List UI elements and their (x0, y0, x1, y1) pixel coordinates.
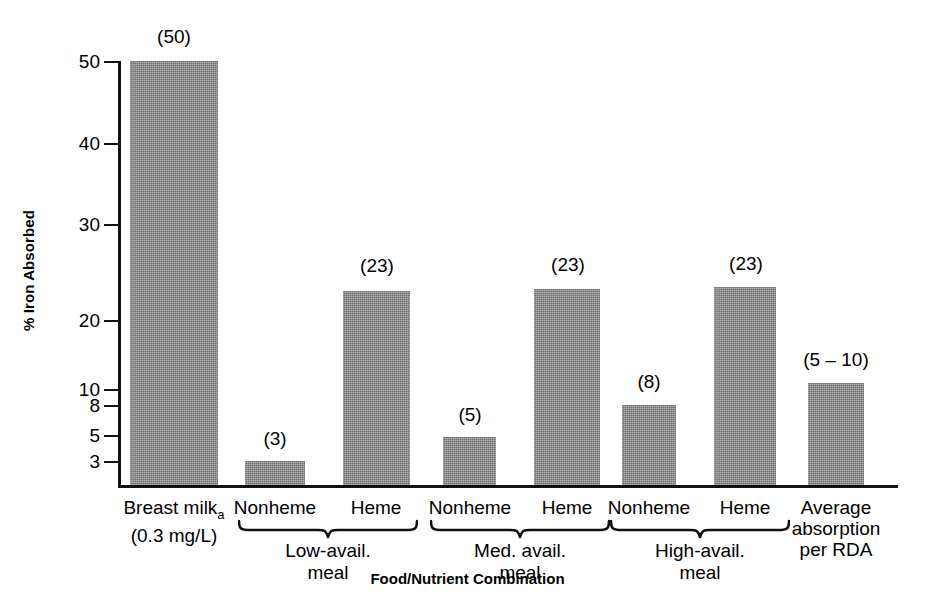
y-tick-label-8: 8 (40, 396, 100, 415)
bar-value-nonheme-med: (5) (435, 405, 505, 424)
category-label-heme-low-text: Heme (351, 497, 402, 518)
bar-nonheme-high (622, 405, 676, 485)
category-label-nonheme-med: Nonheme (408, 497, 532, 518)
group-label-low-avail-line1: Low-avail. (285, 540, 371, 561)
y-tick-mark-8 (104, 405, 120, 407)
y-tick-label-50: 50 (40, 52, 100, 71)
y-tick-mark-40 (104, 143, 120, 145)
bar-heme-med (534, 289, 600, 485)
bar-nonheme-med (443, 437, 496, 485)
bar-heme-high (714, 287, 776, 485)
category-label-heme-med-text: Heme (542, 497, 593, 518)
bar-value-breast-milk: (50) (130, 27, 218, 46)
brace-low-avail (238, 519, 418, 539)
x-axis-title: Food/Nutrient Combination (0, 570, 935, 587)
iron-absorption-bar-chart: % Iron Absorbed 50 40 30 20 10 8 5 3 (50… (0, 0, 935, 606)
bar-value-nonheme-low: (3) (240, 429, 310, 448)
y-tick-mark-30 (104, 224, 120, 226)
bar-breast-milk (130, 61, 218, 485)
category-label-breast-milk-line1: Breast milk (123, 497, 217, 518)
category-label-heme-high-text: Heme (720, 497, 771, 518)
category-label-nonheme-low-text: Nonheme (234, 497, 316, 518)
category-label-nonheme-low: Nonheme (213, 497, 337, 518)
bar-nonheme-low (245, 461, 305, 485)
y-axis-title: % Iron Absorbed (20, 181, 37, 361)
y-tick-label-20: 20 (40, 311, 100, 330)
bar-average-absorption-per-rda (808, 383, 864, 485)
y-tick-label-40: 40 (40, 134, 100, 153)
y-tick-label-3: 3 (40, 452, 100, 471)
y-tick-mark-3 (104, 461, 120, 463)
bar-value-heme-med: (23) (529, 255, 607, 274)
category-label-breast-milk-line2: (0.3 mg/L) (96, 525, 252, 546)
category-label-nonheme-high-text: Nonheme (608, 497, 690, 518)
y-tick-mark-10 (104, 389, 120, 391)
brace-high-avail (610, 519, 790, 539)
brace-med-avail (430, 519, 610, 539)
group-label-high-avail-line1: High-avail. (655, 540, 745, 561)
bar-value-heme-low: (23) (338, 256, 416, 275)
y-tick-mark-50 (104, 61, 120, 63)
bar-value-average-absorption-per-rda: (5 – 10) (780, 350, 892, 369)
group-label-med-avail-line1: Med. avail. (474, 540, 566, 561)
bar-value-heme-high: (23) (708, 254, 784, 273)
y-tick-mark-5 (104, 435, 120, 437)
category-label-nonheme-high: Nonheme (587, 497, 711, 518)
y-tick-label-30: 30 (40, 215, 100, 234)
y-axis-line (118, 61, 121, 488)
y-tick-mark-20 (104, 320, 120, 322)
y-tick-label-5: 5 (40, 426, 100, 445)
bar-value-nonheme-high: (8) (614, 372, 684, 391)
bar-heme-low (343, 291, 410, 485)
x-axis-line (118, 485, 898, 488)
category-label-average-line1: Average (801, 497, 871, 518)
category-label-nonheme-med-text: Nonheme (429, 497, 511, 518)
